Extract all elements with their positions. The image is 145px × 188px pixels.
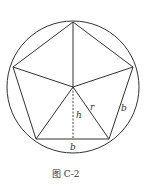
pentagon-in-circle-diagram: h r b b 图 C-2 <box>0 0 145 188</box>
label-b-bottom: b <box>70 142 76 152</box>
label-b-side: b <box>121 103 127 113</box>
radius-right <box>73 67 133 87</box>
radius-bottom-left <box>36 87 73 139</box>
figure-caption: 图 C-2 <box>52 169 80 179</box>
label-h: h <box>76 110 82 120</box>
label-r: r <box>90 102 95 112</box>
radius-left <box>13 67 73 87</box>
